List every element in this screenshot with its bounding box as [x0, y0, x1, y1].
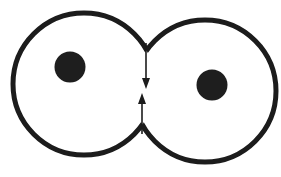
cell-division-diagram — [0, 0, 281, 177]
cells — [13, 13, 276, 162]
diagram-canvas — [0, 0, 281, 177]
right-cell-nucleus — [197, 70, 228, 101]
left-cell-nucleus — [55, 52, 86, 83]
